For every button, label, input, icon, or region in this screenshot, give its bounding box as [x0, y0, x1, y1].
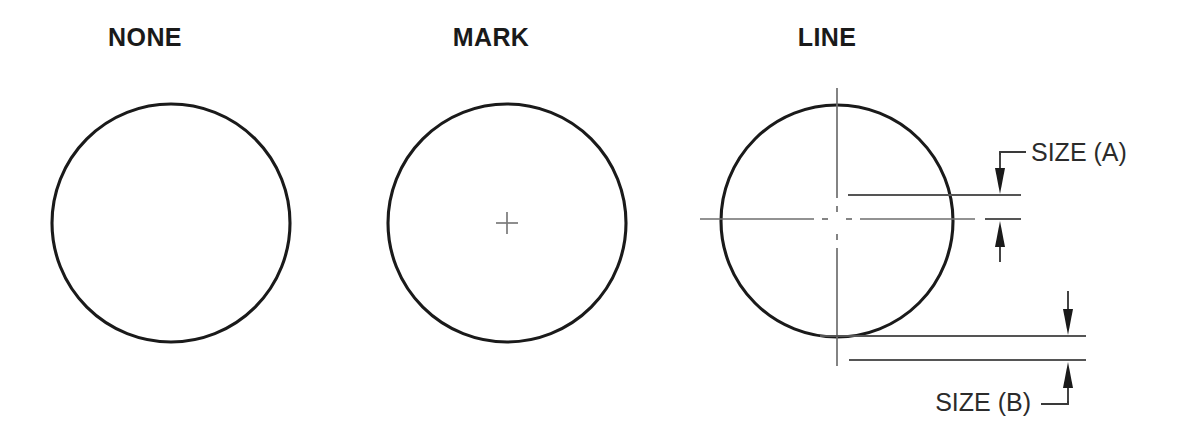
dimension-size-a: SIZE (A)	[848, 138, 1127, 262]
size-b-leader-line	[1041, 401, 1068, 404]
size-a-leader-line	[1000, 152, 1026, 155]
dimension-size-b: SIZE (B)	[820, 291, 1086, 416]
none-circle-outline	[52, 104, 290, 342]
figure-none: NONE	[52, 23, 290, 342]
size-b-label: SIZE (B)	[935, 388, 1031, 416]
size-b-lower-arrowhead-icon	[1063, 362, 1073, 388]
size-a-upper-arrowhead-icon	[995, 168, 1005, 194]
center-mark-cross-icon	[496, 212, 518, 234]
drawing-canvas: NONE MARK LINE	[0, 0, 1204, 445]
figure-line-title: LINE	[798, 23, 857, 51]
technical-drawing-svg: NONE MARK LINE	[0, 0, 1204, 445]
size-a-label: SIZE (A)	[1031, 138, 1127, 166]
figure-mark-title: MARK	[453, 23, 530, 51]
size-a-lower-arrowhead-icon	[995, 221, 1005, 247]
figure-none-title: NONE	[108, 23, 182, 51]
size-b-upper-arrowhead-icon	[1063, 309, 1073, 335]
figure-mark: MARK	[388, 23, 626, 342]
